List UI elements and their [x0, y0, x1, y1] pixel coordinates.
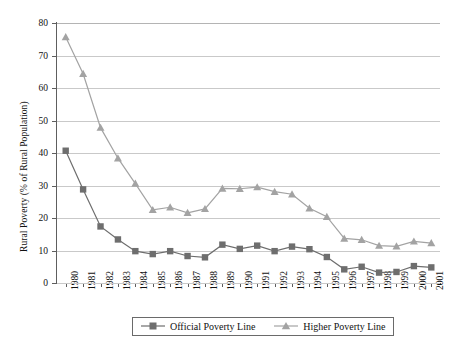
y-tick-label: 50 [26, 116, 48, 126]
y-tick-mark [52, 251, 56, 252]
square-marker-icon [237, 246, 243, 252]
triangle-marker-icon [97, 124, 105, 131]
legend-label: Official Poverty Line [170, 321, 255, 332]
square-marker-icon [97, 223, 103, 229]
square-marker-icon [115, 236, 121, 242]
triangle-marker-icon [253, 183, 261, 190]
series-square [63, 148, 435, 276]
square-marker-icon [393, 269, 399, 275]
y-tick-label: 60 [26, 83, 48, 93]
square-marker-icon [132, 248, 138, 254]
square-marker-icon [306, 246, 312, 252]
y-tick-label: 30 [26, 181, 48, 191]
y-tick-mark [52, 121, 56, 122]
square-marker-icon [184, 253, 190, 259]
square-marker-icon [289, 243, 295, 249]
square-marker-icon [376, 269, 382, 275]
y-tick-label: 10 [26, 246, 48, 256]
triangle-marker-icon [131, 180, 139, 187]
y-tick-mark [52, 283, 56, 284]
y-tick-mark [52, 23, 56, 24]
triangle-marker-icon [166, 203, 174, 210]
y-tick-mark [52, 56, 56, 57]
square-marker-icon [271, 248, 277, 254]
triangle-marker-icon [273, 320, 299, 332]
y-tick-label: 70 [26, 51, 48, 61]
legend-entry[interactable]: Higher Poverty Line [273, 320, 385, 332]
gridline [57, 283, 440, 284]
y-tick-label: 20 [26, 213, 48, 223]
square-marker-icon [150, 251, 156, 257]
square-marker-icon [63, 148, 69, 154]
legend-label: Higher Poverty Line [303, 321, 385, 332]
square-marker-icon [411, 263, 417, 269]
square-marker-icon [167, 248, 173, 254]
y-tick-mark [52, 218, 56, 219]
y-tick-label: 40 [26, 148, 48, 158]
square-marker-icon [80, 186, 86, 192]
y-tick-label: 80 [26, 18, 48, 28]
triangle-marker-icon [62, 33, 70, 40]
square-marker-icon [254, 242, 260, 248]
square-marker-icon [324, 254, 330, 260]
chart-legend: Official Poverty LineHigher Poverty Line [132, 317, 394, 336]
series-triangle [62, 33, 436, 250]
triangle-marker-icon [114, 154, 122, 161]
rural-poverty-line-chart: Rural Poverty (% of Rural Population) 01… [0, 0, 458, 344]
series-layer [57, 23, 440, 283]
y-tick-mark [52, 186, 56, 187]
triangle-marker-icon [323, 213, 331, 220]
legend-entry[interactable]: Official Poverty Line [140, 320, 255, 332]
square-marker-icon [358, 264, 364, 270]
y-tick-mark [52, 153, 56, 154]
triangle-marker-icon [79, 70, 87, 77]
y-tick-mark [52, 88, 56, 89]
plot-area [57, 23, 440, 283]
triangle-marker-icon [410, 237, 418, 244]
square-marker-icon [428, 264, 434, 270]
square-marker-icon [202, 254, 208, 260]
y-tick-label: 0 [26, 278, 48, 288]
square-marker-icon [219, 241, 225, 247]
square-marker-icon [341, 266, 347, 272]
series-line [66, 37, 432, 246]
series-line [66, 151, 432, 273]
square-marker-icon [140, 320, 166, 332]
